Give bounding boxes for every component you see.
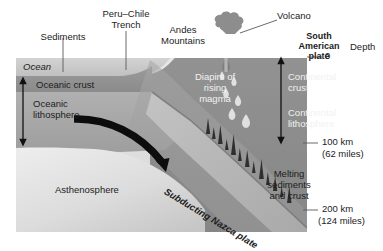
label-oceanic-crust: Oceanic crust <box>36 80 94 90</box>
label-continental-crust-line1: Continental <box>288 72 336 82</box>
label-peru-chile-trench-line1: Peru–Chile <box>94 9 158 19</box>
label-oceanic-lithosphere-line1: Oceanic <box>33 99 68 109</box>
label-continental-lithosphere-line1: Continental <box>288 108 336 118</box>
label-volcano: Volcano <box>277 11 311 21</box>
label-asthenosphere: Asthenosphere <box>55 185 119 195</box>
label-andes-line2: Mountains <box>150 36 216 46</box>
depth-tick-label-200: 200 km <box>322 204 353 214</box>
label-diapirs-line2: rising <box>178 83 252 93</box>
label-oceanic-lithosphere-line2: lithosphere <box>33 110 79 120</box>
label-diapirs-line3: magma <box>178 94 252 104</box>
label-melting-line3: and crust <box>254 191 324 201</box>
label-andes-line1: Andes <box>155 25 211 35</box>
cross-section-body <box>16 30 307 232</box>
label-continental-crust-line2: crust <box>288 83 309 93</box>
depth-tick-label-100: 100 km <box>322 137 353 147</box>
depth-tick-sublabel-200: (124 miles) <box>318 216 365 226</box>
label-melting-line2: sediments <box>254 180 324 190</box>
label-continental-lithosphere-line2: lithosphere <box>288 119 334 129</box>
label-depth: Depth <box>350 42 375 52</box>
depth-tick-sublabel-100: (62 miles) <box>322 149 364 159</box>
depth-tick-label-0: 0 <box>325 51 330 61</box>
label-sediments: Sediments <box>30 32 96 42</box>
label-peru-chile-trench-line2: Trench <box>94 20 158 30</box>
label-ocean: Ocean <box>23 62 51 72</box>
label-diapirs-line1: Diapirs of <box>178 72 252 82</box>
label-melting-line1: Melting <box>258 169 320 179</box>
label-south-american-plate-line3: plate <box>288 52 350 62</box>
